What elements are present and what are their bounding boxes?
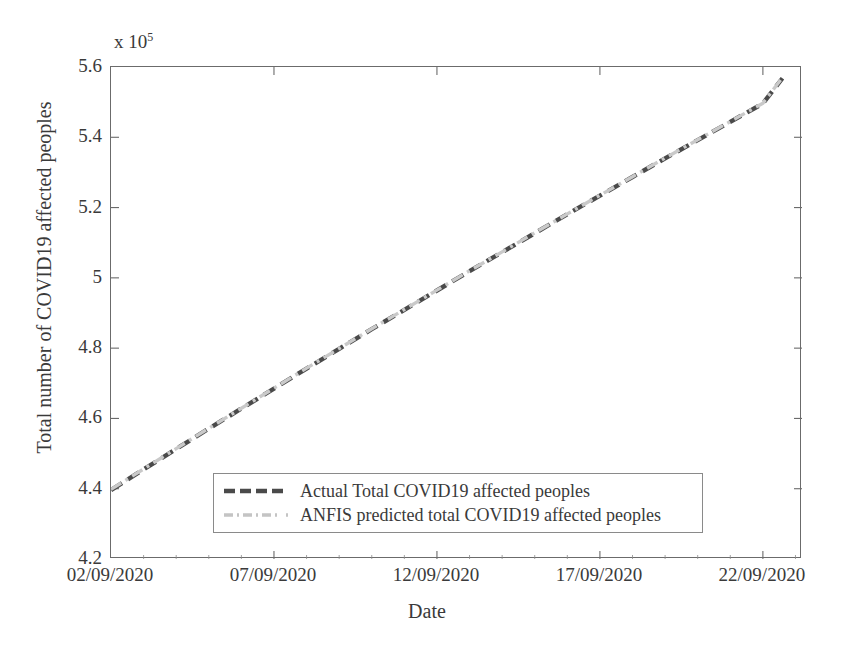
y-axis-title: Total number of COVID19 affected peoples: [33, 48, 56, 508]
x-axis-tick-label: 02/09/2020: [67, 564, 154, 586]
legend-label-actual: Actual Total COVID19 affected peoples: [300, 482, 590, 500]
y-axis-tick-label: 5.6: [8, 55, 110, 77]
legend-entry-actual: Actual Total COVID19 affected peoples: [223, 479, 692, 503]
y-axis-tick-label: 4.8: [8, 336, 110, 358]
x-axis-tick-label: 22/09/2020: [719, 564, 806, 586]
legend-sample-predicted-line: [223, 508, 289, 522]
x-axis-title: Date: [0, 600, 854, 623]
y-axis-tick-label: 5.4: [8, 125, 110, 147]
y-axis-tick-label: 5: [8, 266, 110, 288]
y-axis-exponent-power: 5: [147, 30, 153, 44]
legend-box: Actual Total COVID19 affected peoples AN…: [213, 473, 703, 533]
y-axis-tick-label: 4.4: [8, 477, 110, 499]
x-axis-tick-label: 12/09/2020: [393, 564, 480, 586]
figure-container: x 105 4.24.44.64.855.25.45.6 Date Total …: [0, 0, 854, 646]
y-axis-tick-label: 5.2: [8, 196, 110, 218]
series-line-predicted: [111, 78, 782, 490]
legend-entry-predicted: ANFIS predicted total COVID19 affected p…: [223, 503, 692, 527]
x-axis-tick-label: 07/09/2020: [230, 564, 317, 586]
y-axis-exponent-label: x 105: [114, 30, 153, 53]
y-axis-exponent-base: x 10: [114, 31, 147, 52]
legend-sample-actual-line: [223, 484, 289, 498]
x-axis-tick-label: 17/09/2020: [556, 564, 643, 586]
legend-label-predicted: ANFIS predicted total COVID19 affected p…: [300, 506, 661, 524]
y-axis-tick-label: 4.6: [8, 406, 110, 428]
